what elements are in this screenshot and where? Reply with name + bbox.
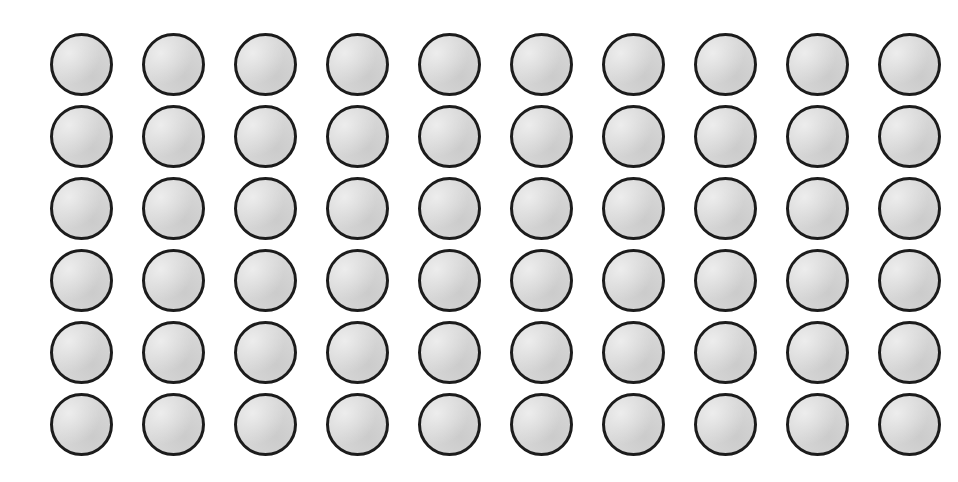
circle-r5-c1 bbox=[50, 321, 113, 384]
circle-row-1-cell-3 bbox=[234, 33, 297, 96]
circle-row-1-cell-1 bbox=[50, 33, 113, 96]
circle-row-4-cell-3 bbox=[234, 249, 297, 312]
circle-r1-c4 bbox=[326, 33, 389, 96]
circle-r4-c1 bbox=[50, 249, 113, 312]
circle-r3-c10 bbox=[878, 177, 941, 240]
circle-r4-c3 bbox=[234, 249, 297, 312]
circle-r3-c5 bbox=[418, 177, 481, 240]
circle-r1-c3 bbox=[234, 33, 297, 96]
circle-grid bbox=[50, 33, 941, 456]
circle-row-4-cell-7 bbox=[602, 249, 665, 312]
circle-row-4-cell-1 bbox=[50, 249, 113, 312]
circle-row-1-cell-4 bbox=[326, 33, 389, 96]
circle-row-6-cell-8 bbox=[694, 393, 757, 456]
circle-row-3-cell-9 bbox=[786, 177, 849, 240]
circle-row-6-cell-4 bbox=[326, 393, 389, 456]
circle-r2-c9 bbox=[786, 105, 849, 168]
circle-r5-c2 bbox=[142, 321, 205, 384]
circle-r1-c6 bbox=[510, 33, 573, 96]
circle-r6-c4 bbox=[326, 393, 389, 456]
circle-r4-c5 bbox=[418, 249, 481, 312]
circle-r3-c8 bbox=[694, 177, 757, 240]
circle-r5-c5 bbox=[418, 321, 481, 384]
circle-row-2-cell-3 bbox=[234, 105, 297, 168]
circle-row-4-cell-5 bbox=[418, 249, 481, 312]
circle-row-4-cell-8 bbox=[694, 249, 757, 312]
circle-r6-c7 bbox=[602, 393, 665, 456]
circle-row-1-cell-5 bbox=[418, 33, 481, 96]
circle-r4-c8 bbox=[694, 249, 757, 312]
circle-r3-c1 bbox=[50, 177, 113, 240]
circle-r3-c6 bbox=[510, 177, 573, 240]
circle-row-6-cell-7 bbox=[602, 393, 665, 456]
circle-row-3-cell-4 bbox=[326, 177, 389, 240]
circle-row-2-cell-10 bbox=[878, 105, 941, 168]
circle-r6-c2 bbox=[142, 393, 205, 456]
circle-row-6-cell-1 bbox=[50, 393, 113, 456]
circle-row-2-cell-4 bbox=[326, 105, 389, 168]
circle-r6-c6 bbox=[510, 393, 573, 456]
circle-row-3-cell-10 bbox=[878, 177, 941, 240]
circle-r6-c1 bbox=[50, 393, 113, 456]
circle-r6-c9 bbox=[786, 393, 849, 456]
circle-r2-c4 bbox=[326, 105, 389, 168]
circle-row-2-cell-8 bbox=[694, 105, 757, 168]
circle-row-2-cell-5 bbox=[418, 105, 481, 168]
circle-r1-c8 bbox=[694, 33, 757, 96]
circle-r3-c3 bbox=[234, 177, 297, 240]
circle-row-3-cell-5 bbox=[418, 177, 481, 240]
circle-r5-c10 bbox=[878, 321, 941, 384]
circle-row-1-cell-2 bbox=[142, 33, 205, 96]
circle-row-4-cell-9 bbox=[786, 249, 849, 312]
circle-r2-c6 bbox=[510, 105, 573, 168]
circle-r1-c1 bbox=[50, 33, 113, 96]
circle-row-2-cell-6 bbox=[510, 105, 573, 168]
circle-r5-c9 bbox=[786, 321, 849, 384]
circle-row-3-cell-3 bbox=[234, 177, 297, 240]
circle-row-5-cell-1 bbox=[50, 321, 113, 384]
circle-r2-c10 bbox=[878, 105, 941, 168]
circle-row-3-cell-6 bbox=[510, 177, 573, 240]
circle-row-1-cell-9 bbox=[786, 33, 849, 96]
circle-row-1-cell-6 bbox=[510, 33, 573, 96]
circle-r6-c10 bbox=[878, 393, 941, 456]
circle-r2-c8 bbox=[694, 105, 757, 168]
circle-row-5-cell-2 bbox=[142, 321, 205, 384]
circle-row-3-cell-1 bbox=[50, 177, 113, 240]
circle-row-5-cell-4 bbox=[326, 321, 389, 384]
circle-row-6-cell-5 bbox=[418, 393, 481, 456]
circle-r4-c7 bbox=[602, 249, 665, 312]
circle-r3-c2 bbox=[142, 177, 205, 240]
circle-r3-c7 bbox=[602, 177, 665, 240]
circle-r6-c8 bbox=[694, 393, 757, 456]
circle-row-5-cell-8 bbox=[694, 321, 757, 384]
circle-row-5-cell-5 bbox=[418, 321, 481, 384]
circle-row-4-cell-2 bbox=[142, 249, 205, 312]
circle-row-6-cell-3 bbox=[234, 393, 297, 456]
circle-r2-c1 bbox=[50, 105, 113, 168]
circle-r5-c3 bbox=[234, 321, 297, 384]
circle-r2-c3 bbox=[234, 105, 297, 168]
circle-r5-c6 bbox=[510, 321, 573, 384]
circle-row-2-cell-9 bbox=[786, 105, 849, 168]
circle-r4-c2 bbox=[142, 249, 205, 312]
circle-row-1-cell-10 bbox=[878, 33, 941, 96]
circle-row-6-cell-9 bbox=[786, 393, 849, 456]
circle-row-5-cell-3 bbox=[234, 321, 297, 384]
circle-r6-c3 bbox=[234, 393, 297, 456]
circle-row-4-cell-10 bbox=[878, 249, 941, 312]
circle-row-6-cell-2 bbox=[142, 393, 205, 456]
circle-r3-c4 bbox=[326, 177, 389, 240]
circle-r4-c10 bbox=[878, 249, 941, 312]
circle-r4-c4 bbox=[326, 249, 389, 312]
circle-row-5-cell-9 bbox=[786, 321, 849, 384]
circle-row-2-cell-1 bbox=[50, 105, 113, 168]
circle-r2-c2 bbox=[142, 105, 205, 168]
canvas bbox=[0, 0, 958, 482]
circle-r5-c4 bbox=[326, 321, 389, 384]
circle-row-4-cell-6 bbox=[510, 249, 573, 312]
circle-row-6-cell-6 bbox=[510, 393, 573, 456]
circle-r4-c9 bbox=[786, 249, 849, 312]
circle-row-5-cell-6 bbox=[510, 321, 573, 384]
circle-r1-c10 bbox=[878, 33, 941, 96]
